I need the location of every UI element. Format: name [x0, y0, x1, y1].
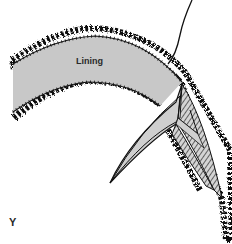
wedge-structure	[110, 84, 182, 183]
panel-label: Y	[9, 216, 16, 228]
lining-label: Lining	[76, 56, 103, 66]
connecting-fiber	[168, 0, 192, 64]
diagram-figure	[0, 0, 232, 244]
diagram-canvas: Lining Y	[0, 0, 232, 244]
